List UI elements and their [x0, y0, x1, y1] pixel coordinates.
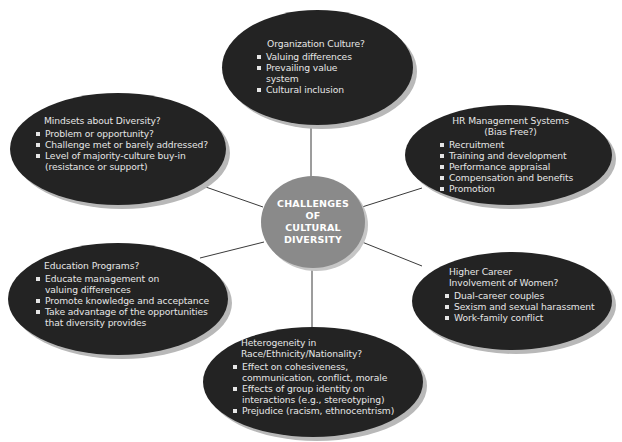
list-item: Effect on cohesiveness, communication, c… [233, 361, 394, 383]
list-item: Effects of group identity on interaction… [233, 383, 394, 405]
list-item: Promote knowledge and acceptance [36, 295, 209, 306]
list-item: Training and development [440, 150, 573, 161]
node-organization-culture: Organization Culture? Valuing difference… [222, 10, 413, 125]
list-item: Promotion [440, 183, 573, 194]
node-item-list: Effect on cohesiveness, communication, c… [233, 361, 394, 416]
list-item: Cultural inclusion [257, 84, 365, 95]
node-title: Education Programs? [36, 260, 209, 271]
connector-upper-right [362, 188, 422, 207]
list-item: Problem or opportunity? [36, 128, 208, 139]
list-item: Challenge met or barely addressed? [36, 139, 208, 150]
node-title: HR Management Systems (Bias Free?) [440, 115, 573, 137]
list-item: Prevailing value system [257, 62, 365, 84]
node-title: Organization Culture? [257, 38, 365, 49]
list-item: Work-family conflict [445, 312, 594, 323]
list-item: Level of majority-culture buy-in (resist… [36, 150, 208, 172]
node-higher-career-involvement-women: Higher Career Involvement of Women? Dual… [412, 252, 612, 350]
list-item: Valuing differences [257, 51, 365, 62]
node-hr-management-systems: HR Management Systems (Bias Free?) Recru… [405, 105, 612, 205]
node-item-list: Dual-career couples Sexism and sexual ha… [445, 290, 594, 323]
connector-upper-left [200, 185, 263, 207]
node-item-list: Educate management on valuing difference… [36, 273, 209, 328]
list-item: Educate management on valuing difference… [36, 273, 209, 295]
list-item: Take advantage of the opportunities that… [36, 306, 209, 328]
node-title: Heterogeneity in Race/Ethnicity/National… [233, 337, 394, 359]
node-education-programs: Education Programs? Educate management o… [8, 243, 228, 355]
list-item: Performance appraisal [440, 161, 573, 172]
node-heterogeneity: Heterogeneity in Race/Ethnicity/National… [203, 327, 423, 437]
connector-lower-left [200, 242, 264, 258]
list-item: Compensation and benefits [440, 172, 573, 183]
node-mindsets-about-diversity: Mindsets about Diversity? Problem or opp… [10, 93, 226, 205]
connector-lower-right [362, 242, 422, 266]
list-item: Dual-career couples [445, 290, 594, 301]
node-item-list: Problem or opportunity? Challenge met or… [36, 128, 208, 172]
list-item: Recruitment [440, 139, 573, 150]
node-item-list: Valuing differences Prevailing value sys… [257, 51, 365, 95]
node-item-list: Recruitment Training and development Per… [440, 139, 573, 194]
node-title: Higher Career Involvement of Women? [445, 266, 594, 288]
node-title: Mindsets about Diversity? [36, 115, 208, 126]
center-hub-label: CHALLENGES OF CULTURAL DIVERSITY [277, 198, 349, 246]
list-item: Prejudice (racism, ethnocentrism) [233, 405, 394, 416]
center-hub: CHALLENGES OF CULTURAL DIVERSITY [261, 176, 365, 268]
list-item: Sexism and sexual harassment [445, 301, 594, 312]
